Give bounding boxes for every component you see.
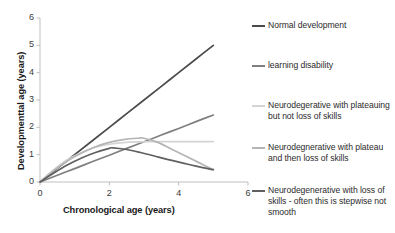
legend-item[interactable]: learning disability [252,60,395,71]
legend-item-label: Normal development [268,20,346,31]
series-line-1 [40,115,213,182]
legend-color-swatch [252,190,265,192]
legend-item-label: Neurodegerative with plateauing but not … [268,100,395,122]
legend-color-swatch [252,65,265,67]
y-tick-label: 5 [24,39,34,49]
legend-item-label: learning disability [268,60,333,71]
legend-item[interactable]: Neurodegenerative with loss of skills - … [252,185,395,219]
legend-item-label: Neurodegnerative with plateau and then l… [268,142,395,164]
y-axis-title: Developmenttal age (years) [16,52,26,170]
legend-color-swatch [252,147,265,149]
x-tick-label: 0 [30,188,50,198]
x-tick-label: 4 [169,188,189,198]
legend-item[interactable]: Neurodegnerative with plateau and then l… [252,142,395,164]
series-line-4 [40,148,213,182]
y-tick-label: 6 [24,12,34,22]
legend-item-label: Neurodegenerative with loss of skills - … [268,185,395,219]
legend-item[interactable]: Neurodegerative with plateauing but not … [252,100,395,122]
plot-canvas [0,0,250,233]
plot-area: 0123456 0246 Developmenttal age (years) … [0,0,250,233]
legend-item[interactable]: Normal development [252,20,395,31]
chart-legend: Normal developmentlearning disabilityNeu… [252,12,395,227]
chart-figure: 0123456 0246 Developmenttal age (years) … [0,0,395,233]
x-axis-title: Chronological age (years) [63,205,175,215]
x-tick-label: 2 [99,188,119,198]
legend-color-swatch [252,25,265,27]
y-tick-label: 0 [24,176,34,186]
legend-color-swatch [252,105,265,107]
